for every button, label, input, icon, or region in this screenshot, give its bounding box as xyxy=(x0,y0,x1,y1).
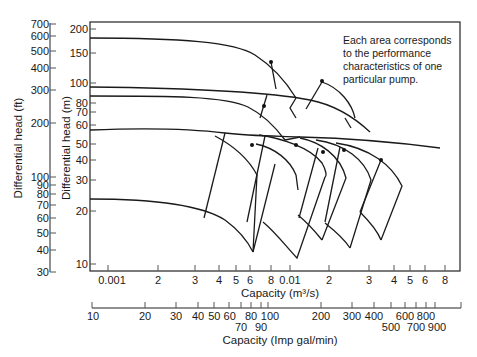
ft-axis-labels: 700 600 500 400 300 200 100 90 80 70 60 … xyxy=(31,18,49,278)
svg-text:40: 40 xyxy=(37,244,49,256)
svg-text:40: 40 xyxy=(76,154,88,166)
svg-text:70: 70 xyxy=(76,106,88,118)
svg-text:2: 2 xyxy=(326,274,332,286)
svg-text:0.01: 0.01 xyxy=(279,274,300,286)
x-axis-labels: 0.001 2 3 4 5 6 8 0.01 2 3 4 5 6 8 xyxy=(98,274,448,286)
gpm-axis-ticks xyxy=(92,302,461,308)
svg-text:600: 600 xyxy=(31,30,49,42)
gpm-axis-title: Capacity (Imp gal/min) xyxy=(222,334,337,346)
svg-text:150: 150 xyxy=(70,47,88,59)
svg-text:500: 500 xyxy=(382,321,400,333)
svg-text:700: 700 xyxy=(407,321,425,333)
svg-text:3: 3 xyxy=(366,274,372,286)
svg-text:100: 100 xyxy=(70,77,88,89)
svg-text:8: 8 xyxy=(268,274,274,286)
svg-text:50: 50 xyxy=(76,138,88,150)
svg-text:10: 10 xyxy=(87,310,99,322)
svg-text:20: 20 xyxy=(139,310,151,322)
x-axis-ticks xyxy=(108,265,445,271)
svg-text:60: 60 xyxy=(37,212,49,224)
svg-text:4: 4 xyxy=(216,274,222,286)
m-axis-title: Differential head (m) xyxy=(60,96,72,200)
ft-axis-title: Differential head (ft) xyxy=(12,97,24,198)
svg-text:500: 500 xyxy=(31,45,49,57)
svg-text:30: 30 xyxy=(37,266,49,278)
svg-text:200: 200 xyxy=(70,23,88,35)
svg-text:6: 6 xyxy=(422,274,428,286)
svg-text:30: 30 xyxy=(76,174,88,186)
svg-text:700: 700 xyxy=(31,18,49,30)
svg-text:5: 5 xyxy=(233,274,239,286)
svg-text:6: 6 xyxy=(247,274,253,286)
svg-text:2: 2 xyxy=(155,274,161,286)
m-axis-labels: 200 150 100 80 70 60 50 40 30 20 10 xyxy=(70,23,88,270)
m-axis-ticks xyxy=(90,29,96,264)
svg-text:90: 90 xyxy=(255,321,267,333)
svg-text:40: 40 xyxy=(192,310,204,322)
chart-annotation: Each area corresponds to the performance… xyxy=(343,34,455,86)
svg-text:8: 8 xyxy=(442,274,448,286)
svg-text:50: 50 xyxy=(37,227,49,239)
svg-text:300: 300 xyxy=(31,84,49,96)
svg-text:70: 70 xyxy=(235,321,247,333)
svg-text:20: 20 xyxy=(76,205,88,217)
x-axis-title: Capacity (m³/s) xyxy=(241,287,319,299)
svg-text:200: 200 xyxy=(31,117,49,129)
svg-text:0.001: 0.001 xyxy=(98,274,126,286)
svg-text:30: 30 xyxy=(170,310,182,322)
svg-text:400: 400 xyxy=(365,310,383,322)
svg-text:300: 300 xyxy=(343,310,361,322)
svg-text:900: 900 xyxy=(428,321,446,333)
svg-text:5: 5 xyxy=(407,274,413,286)
svg-text:70: 70 xyxy=(37,199,49,211)
svg-text:200: 200 xyxy=(312,310,330,322)
ft-axis-ticks xyxy=(50,24,56,272)
svg-text:3: 3 xyxy=(192,274,198,286)
svg-text:50 60: 50 60 xyxy=(208,310,236,322)
gpm-axis-labels-row2: 70 90 500 700 900 xyxy=(235,321,446,333)
svg-text:10: 10 xyxy=(76,258,88,270)
svg-text:400: 400 xyxy=(31,62,49,74)
svg-text:4: 4 xyxy=(391,274,397,286)
svg-text:60: 60 xyxy=(76,119,88,131)
